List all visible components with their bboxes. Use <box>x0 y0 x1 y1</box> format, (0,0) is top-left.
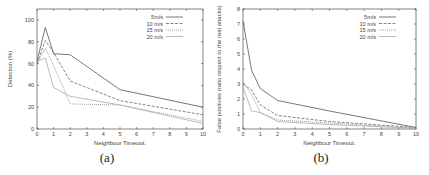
series-line <box>243 84 416 128</box>
x-tick-label: 10 <box>413 131 419 137</box>
legend-label: 5m/s <box>364 14 376 20</box>
legend-label: 20 m/s <box>359 34 376 40</box>
legend-label: 15 m/s <box>146 27 163 33</box>
x-tick-label: 6 <box>345 131 348 137</box>
y-tick-label: 7 <box>237 21 240 27</box>
false-positives-chart: 012345678910012345678Neighbour Timeout.F… <box>214 0 429 150</box>
series-line <box>37 41 203 115</box>
y-tick-label: 2 <box>237 96 240 102</box>
x-tick-label: 3 <box>85 131 88 137</box>
y-tick-label: 3 <box>237 81 240 87</box>
x-tick-label: 1 <box>52 131 55 137</box>
legend-label: 5m/s <box>151 14 163 20</box>
x-tick-label: 5 <box>118 131 121 137</box>
y-tick-label: 20 <box>28 104 34 110</box>
x-tick-label: 7 <box>152 131 155 137</box>
series-line <box>243 87 416 128</box>
x-tick-label: 8 <box>380 131 383 137</box>
x-tick-label: 0 <box>241 131 244 137</box>
y-tick-label: 80 <box>28 39 34 45</box>
x-tick-label: 5 <box>328 131 331 137</box>
x-tick-label: 2 <box>276 131 279 137</box>
x-tick-label: 10 <box>200 131 206 137</box>
x-tick-label: 8 <box>168 131 171 137</box>
caption-b: (b) <box>214 150 428 166</box>
detection-chart: 012345678910020406080100Neighbour Timeou… <box>0 0 214 150</box>
legend-label: 10 m/s <box>146 21 163 27</box>
y-axis-label: Detection (%) <box>7 51 13 87</box>
series-line <box>243 21 416 128</box>
x-tick-label: 0 <box>35 131 38 137</box>
x-tick-label: 9 <box>185 131 188 137</box>
y-axis-label: False positives (ratio respect to the re… <box>216 5 222 132</box>
caption-a: (a) <box>0 150 214 166</box>
legend-label: 15 m/s <box>359 27 376 33</box>
series-line <box>37 58 203 123</box>
chart-panel-b: 012345678910012345678Neighbour Timeout.F… <box>214 0 428 175</box>
series-line <box>37 48 203 121</box>
y-tick-label: 0 <box>31 126 34 132</box>
x-axis-label: Neighbour Timeout. <box>94 140 147 146</box>
y-tick-label: 6 <box>237 36 240 42</box>
y-tick-label: 1 <box>237 111 240 117</box>
x-tick-label: 3 <box>293 131 296 137</box>
y-tick-label: 60 <box>28 61 34 67</box>
x-tick-label: 9 <box>397 131 400 137</box>
x-tick-label: 4 <box>102 131 105 137</box>
y-tick-label: 8 <box>237 6 240 12</box>
legend-label: 10 m/s <box>359 21 376 27</box>
y-tick-label: 100 <box>25 17 34 23</box>
plot-frame <box>37 9 203 129</box>
x-tick-label: 6 <box>135 131 138 137</box>
legend-label: 20 m/s <box>146 34 163 40</box>
y-tick-label: 5 <box>237 51 240 57</box>
y-tick-label: 0 <box>237 126 240 132</box>
y-tick-label: 4 <box>237 66 240 72</box>
x-tick-label: 4 <box>311 131 314 137</box>
x-axis-label: Neighbour Timeout. <box>303 140 356 146</box>
x-tick-label: 7 <box>363 131 366 137</box>
x-tick-label: 2 <box>69 131 72 137</box>
x-tick-label: 1 <box>259 131 262 137</box>
chart-panel-a: 012345678910020406080100Neighbour Timeou… <box>0 0 214 175</box>
y-tick-label: 40 <box>28 82 34 88</box>
